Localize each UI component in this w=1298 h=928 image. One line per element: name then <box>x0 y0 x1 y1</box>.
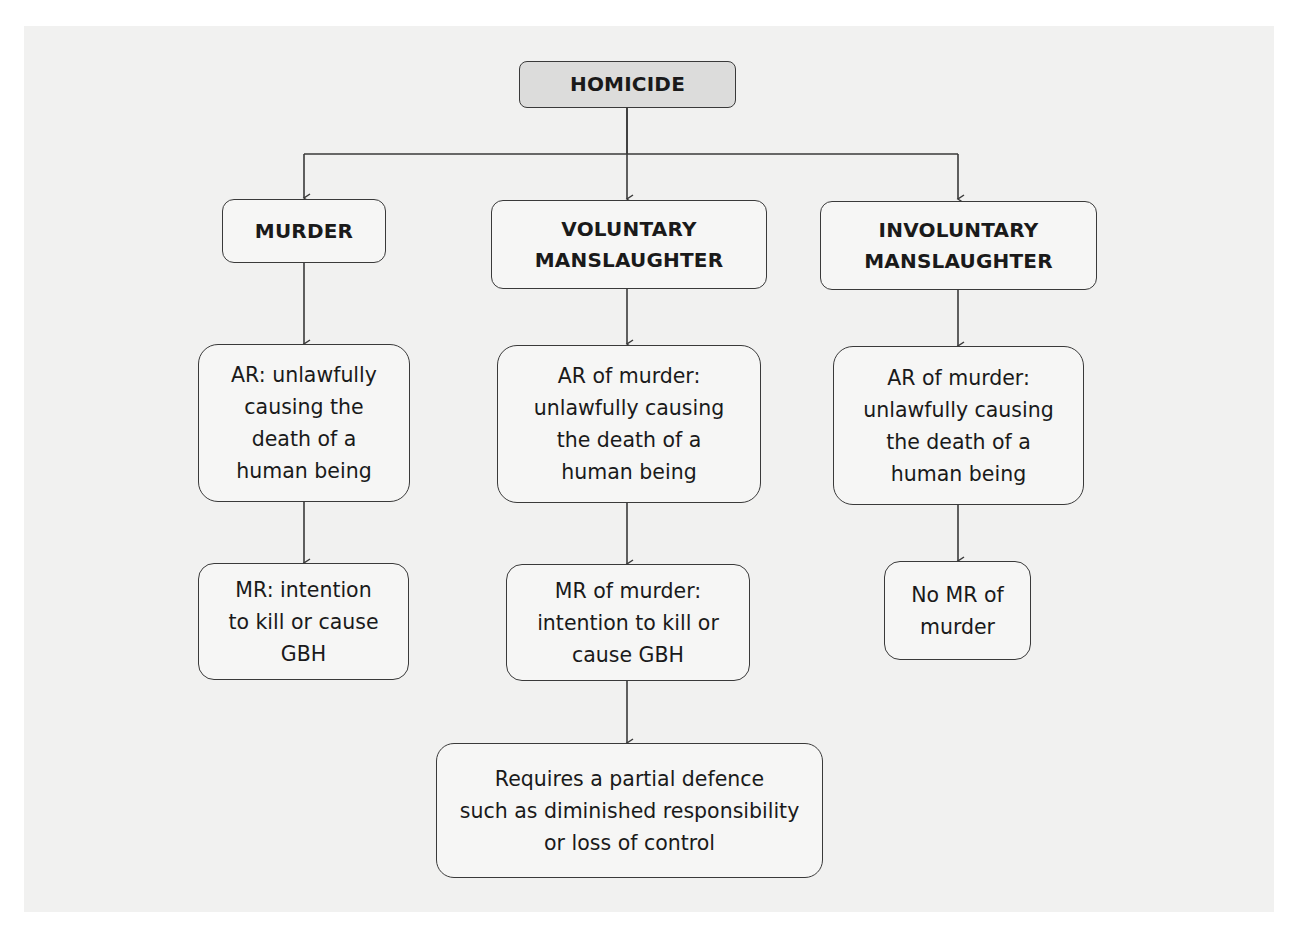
node-involuntary-mr: No MR of murder <box>884 561 1031 660</box>
node-voluntary-ar-text: AR of murder: unlawfully causing the dea… <box>534 360 724 488</box>
node-involuntary-manslaughter: INVOLUNTARY MANSLAUGHTER <box>820 201 1097 290</box>
node-murder-label: MURDER <box>255 216 353 247</box>
node-involuntary-ar: AR of murder: unlawfully causing the dea… <box>833 346 1084 505</box>
node-voluntary-manslaughter: VOLUNTARY MANSLAUGHTER <box>491 200 767 289</box>
node-voluntary-ar: AR of murder: unlawfully causing the dea… <box>497 345 761 503</box>
node-involuntary-ar-text: AR of murder: unlawfully causing the dea… <box>863 362 1053 490</box>
node-involuntary-manslaughter-label: INVOLUNTARY MANSLAUGHTER <box>864 215 1053 277</box>
node-murder-ar-text: AR: unlawfully causing the death of a hu… <box>231 359 377 487</box>
node-voluntary-mr-text: MR of murder: intention to kill or cause… <box>537 575 719 671</box>
node-homicide: HOMICIDE <box>519 61 736 108</box>
node-murder: MURDER <box>222 199 386 263</box>
node-involuntary-mr-text: No MR of murder <box>911 579 1004 643</box>
node-partial-defence-text: Requires a partial defence such as dimin… <box>460 763 800 859</box>
node-homicide-label: HOMICIDE <box>570 69 685 100</box>
node-murder-ar: AR: unlawfully causing the death of a hu… <box>198 344 410 502</box>
node-partial-defence: Requires a partial defence such as dimin… <box>436 743 823 878</box>
node-murder-mr-text: MR: intention to kill or cause GBH <box>228 574 378 670</box>
node-voluntary-mr: MR of murder: intention to kill or cause… <box>506 564 750 681</box>
node-murder-mr: MR: intention to kill or cause GBH <box>198 563 409 680</box>
node-voluntary-manslaughter-label: VOLUNTARY MANSLAUGHTER <box>535 214 724 276</box>
